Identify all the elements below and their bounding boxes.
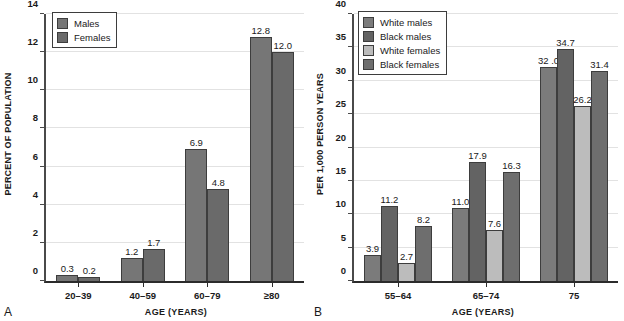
y-tick-mark — [348, 213, 352, 214]
x-tick-mark — [486, 281, 487, 287]
bar-value-label: 1.7 — [147, 237, 160, 248]
y-tick-label: 6 — [33, 150, 38, 161]
y-axis-title-a-text: PERCENT OF POPULATION — [3, 72, 13, 195]
x-tick-mark — [574, 281, 575, 287]
bar-value-label: 2.7 — [400, 251, 413, 262]
bar: 0.3 — [56, 275, 78, 281]
bar-value-label: 17.9 — [468, 150, 487, 161]
legend-item[interactable]: White females — [363, 43, 440, 57]
y-tick-mark — [40, 13, 44, 14]
bar-value-label: 4.8 — [212, 177, 225, 188]
legend-item[interactable]: Females — [57, 30, 110, 44]
x-tick-mark — [207, 281, 208, 287]
bar: 16.3 — [503, 172, 520, 281]
legend-a: MalesFemales — [52, 12, 117, 48]
x-tick-label: 65–74 — [473, 290, 499, 301]
bar: 12.0 — [272, 52, 294, 281]
y-tick-mark — [348, 80, 352, 81]
figure-container: PERCENT OF POPULATION 0246810121420–390.… — [0, 0, 624, 321]
legend-item[interactable]: Males — [57, 16, 110, 30]
bar: 2.7 — [398, 263, 415, 281]
bar-value-label: 8.2 — [417, 214, 430, 225]
y-tick-mark — [40, 280, 44, 281]
y-tick-label: 15 — [335, 164, 346, 175]
bar-value-label: 16.3 — [502, 160, 521, 171]
bar-value-label: 3.9 — [366, 243, 379, 254]
y-tick-label: 30 — [335, 64, 346, 75]
y-tick-label: 12 — [27, 36, 38, 47]
y-tick-label: 8 — [33, 112, 38, 123]
y-axis-title-b: PER 1,000 PERSON YEARS — [312, 0, 328, 268]
x-tick-label: ≥80 — [264, 290, 280, 301]
legend-item[interactable]: White males — [363, 15, 440, 29]
x-tick-label: 55–64 — [385, 290, 411, 301]
legend-label: Black females — [380, 59, 439, 70]
y-tick-label: 10 — [335, 198, 346, 209]
legend-swatch-icon — [57, 18, 68, 29]
panel-letter-b: B — [314, 305, 322, 319]
bar-value-label: 0.2 — [83, 265, 96, 276]
bar-value-label: 32 .0 — [538, 55, 559, 66]
bar: 0.2 — [78, 277, 100, 281]
y-tick-mark — [40, 51, 44, 52]
bar-value-label: 0.3 — [61, 263, 74, 274]
y-tick-mark — [348, 46, 352, 47]
bar: 11.0 — [452, 208, 469, 281]
bar-value-label: 12.0 — [274, 40, 293, 51]
bar: 11.2 — [381, 206, 398, 281]
y-axis-title-a: PERCENT OF POPULATION — [0, 0, 16, 268]
bar-value-label: 26.2 — [573, 94, 592, 105]
legend-label: Males — [74, 18, 99, 29]
x-axis-title-b: AGE (YEARS) — [312, 307, 624, 317]
y-tick-label: 25 — [335, 98, 346, 109]
y-tick-mark — [348, 180, 352, 181]
legend-item[interactable]: Black females — [363, 57, 440, 71]
bar: 12.8 — [250, 37, 272, 281]
y-tick-label: 14 — [27, 0, 38, 9]
y-tick-label: 4 — [33, 188, 38, 199]
bar-value-label: 31.4 — [590, 59, 609, 70]
plot-inner-a: 0246810121420–390.30.240–591.21.760–796.… — [44, 14, 304, 283]
bar: 8.2 — [415, 226, 432, 281]
legend-swatch-icon — [363, 17, 374, 28]
gridline — [354, 80, 618, 81]
legend-swatch-icon — [363, 31, 374, 42]
x-tick-mark — [272, 281, 273, 287]
bar: 32 .0 — [540, 67, 557, 281]
legend-label: White males — [380, 17, 432, 28]
bar-value-label: 6.9 — [190, 137, 203, 148]
bar-value-label: 34.7 — [556, 37, 575, 48]
legend-item[interactable]: Black males — [363, 29, 440, 43]
x-tick-label: 20–39 — [65, 290, 91, 301]
bar: 34.7 — [557, 49, 574, 281]
y-tick-mark — [348, 147, 352, 148]
plot-area-a: 0246810121420–390.30.240–591.21.760–796.… — [44, 14, 304, 283]
chart-panel-a: PERCENT OF POPULATION 0246810121420–390.… — [0, 0, 312, 321]
y-tick-mark — [348, 247, 352, 248]
y-tick-label: 40 — [335, 0, 346, 9]
y-tick-label: 0 — [341, 265, 346, 276]
bar: 7.6 — [486, 230, 503, 281]
y-tick-mark — [40, 89, 44, 90]
y-tick-mark — [40, 127, 44, 128]
bar: 3.9 — [364, 255, 381, 281]
y-axis-title-b-text: PER 1,000 PERSON YEARS — [315, 73, 325, 195]
y-tick-mark — [40, 204, 44, 205]
y-tick-label: 2 — [33, 226, 38, 237]
y-tick-mark — [40, 242, 44, 243]
panel-letter-a: A — [4, 305, 12, 319]
x-tick-mark — [143, 281, 144, 287]
legend-label: Females — [74, 32, 110, 43]
bar-value-label: 12.8 — [252, 25, 271, 36]
x-tick-label: 75 — [569, 290, 580, 301]
y-tick-label: 35 — [335, 31, 346, 42]
x-tick-label: 60–79 — [194, 290, 220, 301]
y-tick-label: 10 — [27, 74, 38, 85]
bar-value-label: 11.0 — [452, 196, 470, 207]
x-tick-mark — [78, 281, 79, 287]
x-tick-label: 40–59 — [130, 290, 156, 301]
legend-label: Black males — [380, 31, 431, 42]
bar: 26.2 — [574, 106, 591, 281]
bar: 4.8 — [207, 189, 229, 281]
legend-swatch-icon — [363, 45, 374, 56]
